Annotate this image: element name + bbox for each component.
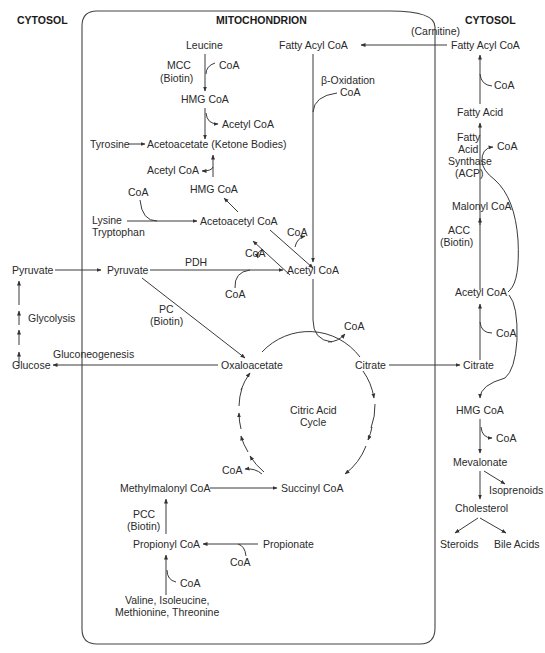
label-fas-line1: Fatty: [457, 131, 481, 143]
label-coa-leucine: CoA: [219, 59, 239, 71]
node-fatty-acid: Fatty Acid: [457, 106, 503, 118]
node-citrate-cytosol: Citrate: [463, 359, 494, 371]
node-oxaloacetate: Oxaloacetate: [221, 359, 283, 371]
label-coa-succinyl: CoA: [222, 464, 242, 476]
node-fatty-acyl-coa-cytosol: Fatty Acyl CoA: [451, 39, 520, 51]
label-pdh: PDH: [185, 256, 207, 268]
node-tryptophan: Tryptophan: [92, 226, 145, 238]
metabolic-pathway-diagram: CYTOSOL MITOCHONDRION CYTOSOL Leucine MC…: [0, 0, 545, 653]
node-lysine: Lysine: [92, 214, 122, 226]
header-cytosol-left: CYTOSOL: [17, 14, 68, 26]
label-fas-line2: Acid: [458, 143, 479, 155]
label-coa-citrate: CoA: [344, 320, 364, 332]
label-coa-beta: CoA: [340, 86, 360, 98]
node-propionate: Propionate: [263, 538, 314, 550]
label-coa-aa2: CoA: [245, 247, 265, 259]
label-coa-fa3: CoA: [496, 327, 516, 339]
label-pcc: PCC: [133, 508, 156, 520]
label-coa-propionate: CoA: [230, 556, 250, 568]
node-leucine: Leucine: [186, 39, 223, 51]
label-mcc-biotin: (Biotin): [160, 72, 193, 84]
label-coa-pdh: CoA: [225, 288, 245, 300]
label-carnitine: (Carnitine): [411, 25, 460, 37]
node-pyruvate-mito: Pyruvate: [107, 264, 149, 276]
node-valine-line2: Methionine, Threonine: [115, 606, 219, 618]
label-acc-biotin: (Biotin): [440, 236, 473, 248]
node-steroids: Steroids: [440, 538, 479, 550]
node-glucose: Glucose: [12, 359, 51, 371]
label-acetyl-coa-out: Acetyl CoA: [222, 118, 274, 130]
node-propionyl-coa: Propionyl CoA: [133, 538, 200, 550]
node-hmg-coa-top: HMG CoA: [181, 93, 229, 105]
label-coa-valine: CoA: [180, 577, 200, 589]
label-beta-oxidation: β-Oxidation: [321, 74, 375, 86]
label-coa-fa1: CoA: [494, 79, 514, 91]
node-acetoacetyl-coa: Acetoacetyl CoA: [200, 215, 278, 227]
label-gluconeogenesis: Gluconeogenesis: [53, 348, 134, 360]
node-malonyl-coa: Malonyl CoA: [452, 200, 512, 212]
header-mitochondrion: MITOCHONDRION: [216, 14, 307, 26]
label-coa-lysine: CoA: [128, 186, 148, 198]
node-acetyl-coa-cytosol: Acetyl CoA: [455, 286, 507, 298]
node-acetyl-coa-in: Acetyl CoA: [147, 164, 199, 176]
label-cycle-line1: Citric Acid: [290, 404, 337, 416]
label-fas-line4: (ACP): [455, 167, 484, 179]
node-fatty-acyl-coa: Fatty Acyl CoA: [279, 39, 348, 51]
node-acetyl-coa: Acetyl CoA: [287, 264, 339, 276]
label-fas-line3: Synthase: [448, 155, 492, 167]
node-mevalonate: Mevalonate: [453, 456, 507, 468]
label-cycle-line2: Cycle: [300, 416, 326, 428]
node-tyrosine: Tyrosine: [90, 138, 130, 150]
node-hmg-coa-mid: HMG CoA: [190, 183, 238, 195]
node-citrate-mito: Citrate: [355, 359, 386, 371]
node-hmg-coa-cytosol: HMG CoA: [456, 404, 504, 416]
node-cholesterol: Cholesterol: [455, 502, 508, 514]
node-bile-acids: Bile Acids: [494, 538, 540, 550]
label-pc-biotin: (Biotin): [150, 315, 183, 327]
label-pcc-biotin: (Biotin): [127, 520, 160, 532]
node-acetoacetate: Acetoacetate (Ketone Bodies): [147, 138, 287, 150]
label-coa-fa2: CoA: [497, 140, 517, 152]
node-isoprenoids: Isoprenoids: [489, 484, 543, 496]
label-acc: ACC: [448, 224, 471, 236]
header-cytosol-right: CYTOSOL: [465, 14, 516, 26]
node-pyruvate-cytosol: Pyruvate: [12, 264, 54, 276]
node-valine-line1: Valine, Isoleucine,: [125, 594, 209, 606]
node-succinyl-coa: Succinyl CoA: [281, 482, 343, 494]
label-glycolysis: Glycolysis: [28, 312, 75, 324]
label-pc: PC: [159, 303, 174, 315]
label-coa-fa4: CoA: [496, 432, 516, 444]
label-coa-aa1: CoA: [287, 226, 307, 238]
node-methylmalonyl-coa: Methylmalonyl CoA: [120, 482, 210, 494]
label-mcc: MCC: [167, 59, 191, 71]
